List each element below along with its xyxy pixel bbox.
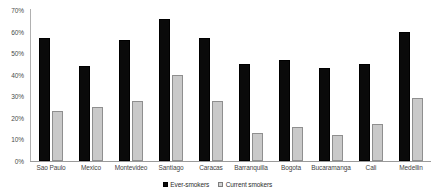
bar-group [31, 0, 71, 161]
bar-ever-smokers [239, 64, 250, 161]
bar-group [71, 0, 111, 161]
legend-item: Ever-smokers [163, 181, 209, 188]
x-axis-tick: Sao Paulo [31, 164, 71, 178]
bar-ever-smokers [359, 64, 370, 161]
bar-ever-smokers [399, 32, 410, 161]
x-axis-tick: Bogota [271, 164, 311, 178]
x-axis-tick: Medellin [391, 164, 431, 178]
bar-current-smokers [212, 101, 223, 161]
bar-ever-smokers [39, 38, 50, 161]
x-axis-tick: Bucaramanga [311, 164, 351, 178]
bar-current-smokers [332, 135, 343, 161]
bar-group [271, 0, 311, 161]
bar-ever-smokers [79, 66, 90, 161]
x-axis-tick: Mexico [71, 164, 111, 178]
bar-group [191, 0, 231, 161]
bar-current-smokers [412, 98, 423, 161]
legend-label: Ever-smokers [170, 181, 209, 188]
chart-legend: Ever-smokersCurrent smokers [0, 181, 435, 188]
bar-ever-smokers [199, 38, 210, 161]
x-axis-tick: Cali [351, 164, 391, 178]
bar-groups [31, 0, 431, 161]
x-axis-line [30, 161, 431, 162]
bar-group [351, 0, 391, 161]
bar-chart: 70%60%50%40%30%20%10%0% Sao PauloMexicoM… [0, 0, 435, 196]
x-axis-tick: Caracas [191, 164, 231, 178]
bar-current-smokers [372, 124, 383, 161]
bar-ever-smokers [119, 40, 130, 161]
bar-current-smokers [92, 107, 103, 161]
bar-current-smokers [132, 101, 143, 161]
y-axis-tick: 30% [11, 93, 24, 100]
bar-current-smokers [172, 75, 183, 161]
bar-group [391, 0, 431, 161]
y-axis-tick: 70% [11, 7, 24, 14]
bar-group [231, 0, 271, 161]
y-axis-tick: 50% [11, 50, 24, 57]
y-axis-tick: 20% [11, 114, 24, 121]
y-axis-tick-labels: 70%60%50%40%30%20%10%0% [0, 0, 28, 196]
y-axis-tick: 40% [11, 71, 24, 78]
bar-group [111, 0, 151, 161]
x-axis-tick: Barranquilla [231, 164, 271, 178]
y-axis-tick: 10% [11, 136, 24, 143]
bar-ever-smokers [159, 19, 170, 161]
bar-current-smokers [52, 111, 63, 161]
x-axis-tick-labels: Sao PauloMexicoMontevideoSantiagoCaracas… [31, 164, 431, 178]
bar-ever-smokers [319, 68, 330, 161]
bar-group [311, 0, 351, 161]
y-axis-tick: 0% [15, 158, 24, 165]
bar-group [151, 0, 191, 161]
legend-item: Current smokers [218, 181, 272, 188]
bar-current-smokers [252, 133, 263, 161]
x-axis-tick: Montevideo [111, 164, 151, 178]
y-axis-tick: 60% [11, 28, 24, 35]
legend-swatch-ever-icon [163, 182, 168, 187]
x-axis-tick: Santiago [151, 164, 191, 178]
legend-swatch-current-icon [218, 182, 223, 187]
legend-label: Current smokers [226, 181, 273, 188]
bar-current-smokers [292, 127, 303, 162]
bar-ever-smokers [279, 60, 290, 161]
